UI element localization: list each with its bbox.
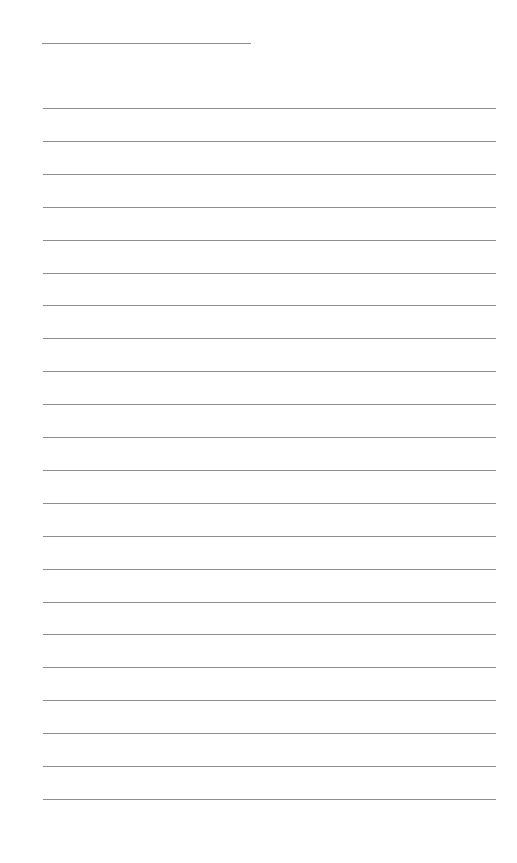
ruled-line bbox=[43, 240, 496, 241]
ruled-line bbox=[43, 733, 496, 734]
ruled-line bbox=[43, 667, 496, 668]
lined-page bbox=[0, 0, 517, 863]
ruled-line bbox=[43, 404, 496, 405]
ruled-line bbox=[43, 207, 496, 208]
ruled-line bbox=[43, 437, 496, 438]
ruled-line bbox=[43, 766, 496, 767]
ruled-line bbox=[43, 174, 496, 175]
ruled-line bbox=[43, 108, 496, 109]
ruled-line bbox=[43, 503, 496, 504]
ruled-line bbox=[43, 700, 496, 701]
ruled-line bbox=[43, 602, 496, 603]
ruled-line bbox=[43, 799, 496, 800]
ruled-line bbox=[43, 569, 496, 570]
ruled-line bbox=[43, 273, 496, 274]
ruled-line bbox=[43, 305, 496, 306]
ruled-line bbox=[43, 141, 496, 142]
header-line bbox=[42, 43, 251, 44]
ruled-line bbox=[43, 338, 496, 339]
ruled-line bbox=[43, 371, 496, 372]
ruled-line bbox=[43, 536, 496, 537]
ruled-line bbox=[43, 470, 496, 471]
ruled-line bbox=[43, 634, 496, 635]
